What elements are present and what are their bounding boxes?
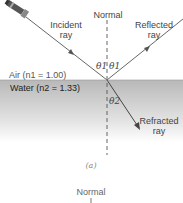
panel-b-normal-label: Normal <box>71 187 111 197</box>
incident-label: Incident ray <box>44 20 88 40</box>
refracted-label: Refracted ray <box>135 116 183 136</box>
reflected-label-line1: Reflected <box>128 20 180 30</box>
theta1-left-label: θ1 <box>96 61 107 71</box>
incident-label-line2: ray <box>44 30 88 40</box>
reflected-arrowhead <box>144 46 150 52</box>
panel-a-caption: (a) <box>78 161 104 171</box>
theta2-label: θ2 <box>109 96 120 106</box>
refracted-label-line2: ray <box>135 126 183 136</box>
incident-label-line1: Incident <box>44 20 88 30</box>
reflected-label-line2: ray <box>128 30 180 40</box>
refracted-label-line1: Refracted <box>135 116 183 126</box>
normal-label: Normal <box>88 10 128 20</box>
water-label: Water (n2 = 1.33) <box>10 83 80 93</box>
theta1-right-label: θ1 <box>109 61 120 71</box>
air-label: Air (n1 = 1.00) <box>9 70 66 80</box>
reflected-label: Reflected ray <box>128 20 180 40</box>
flashlight-icon <box>4 0 29 18</box>
